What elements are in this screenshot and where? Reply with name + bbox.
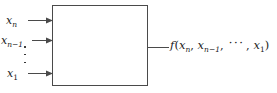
input-arrow-x-n-minus-1 — [32, 36, 53, 45]
input-arrow-x-1 — [28, 69, 53, 78]
block-diagram-figure: xn xn−1 x1 f(xn, xn−1, ···, x1) — [0, 0, 277, 93]
comma: , — [246, 38, 250, 52]
input-arrow-x-n — [28, 16, 53, 25]
output-lead-line — [148, 47, 169, 48]
output-subscript-n-minus-1: n−1 — [204, 45, 220, 54]
black-box — [52, 5, 148, 86]
output-variable-x: x — [253, 38, 260, 52]
ellipsis-dot — [24, 46, 26, 48]
comma: , — [190, 38, 194, 52]
input-subscript-n: n — [12, 20, 17, 29]
input-label-x-n-minus-1: xn−1 — [1, 35, 23, 46]
output-subscript-n: n — [185, 45, 190, 54]
ellipsis-dot — [24, 62, 26, 64]
input-subscript-n-minus-1: n−1 — [7, 40, 23, 49]
input-label-x-1: x1 — [7, 68, 18, 79]
vertical-ellipsis — [23, 46, 27, 66]
close-paren: ) — [265, 38, 270, 52]
output-subscript-1: 1 — [260, 45, 265, 54]
input-label-x-n: xn — [6, 15, 17, 26]
comma: , — [220, 38, 224, 52]
output-expression: f(xn, xn−1, ···, x1) — [170, 40, 269, 52]
horizontal-ellipsis: ··· — [227, 36, 246, 50]
ellipsis-dot — [24, 54, 26, 56]
input-subscript-1: 1 — [13, 73, 18, 82]
